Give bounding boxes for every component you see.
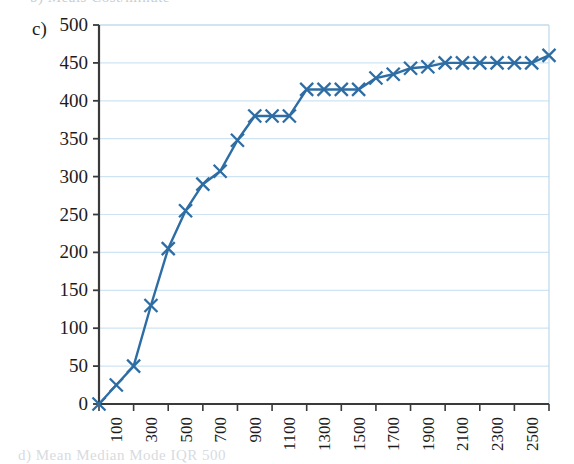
x-axis xyxy=(99,404,549,411)
svg-text:200: 200 xyxy=(60,241,89,262)
svg-text:500: 500 xyxy=(60,14,89,35)
data-point-marker xyxy=(144,299,157,312)
chart-svg: 050100150200250300350400450500 100300500… xyxy=(0,0,574,464)
data-point-marker xyxy=(110,379,123,392)
clipped-text-below-label: d) Mean Median Mode IQR 500 xyxy=(18,450,226,464)
gridlines xyxy=(99,25,549,366)
series-markers xyxy=(93,49,556,411)
chart-page: b) Meals Cost/minute c) 0501001502002503… xyxy=(0,0,574,464)
clipped-text-below: d) Mean Median Mode IQR 500 xyxy=(0,450,574,464)
svg-text:250: 250 xyxy=(60,204,89,225)
svg-text:300: 300 xyxy=(142,417,161,443)
svg-text:1300: 1300 xyxy=(315,417,334,451)
svg-text:1900: 1900 xyxy=(419,417,438,451)
svg-text:50: 50 xyxy=(69,355,88,376)
svg-text:100: 100 xyxy=(60,317,89,338)
series-line xyxy=(99,55,549,404)
data-point-marker xyxy=(214,165,227,178)
x-tick-labels: 1003005007009001100130015001700190021002… xyxy=(107,417,541,451)
data-point-marker xyxy=(162,242,175,255)
svg-text:350: 350 xyxy=(60,128,89,149)
svg-text:1700: 1700 xyxy=(384,417,403,451)
svg-text:2300: 2300 xyxy=(488,417,507,451)
data-point-marker xyxy=(179,204,192,217)
cumulative-frequency-chart: 050100150200250300350400450500 100300500… xyxy=(0,0,574,464)
svg-text:2500: 2500 xyxy=(523,417,542,451)
svg-text:500: 500 xyxy=(177,417,196,443)
svg-text:0: 0 xyxy=(79,393,89,414)
y-tick-labels: 050100150200250300350400450500 xyxy=(60,14,89,414)
svg-text:1500: 1500 xyxy=(350,417,369,451)
svg-text:100: 100 xyxy=(107,417,126,443)
svg-text:400: 400 xyxy=(60,90,89,111)
data-point-marker xyxy=(231,134,244,147)
svg-text:150: 150 xyxy=(60,279,89,300)
svg-text:900: 900 xyxy=(246,417,265,443)
svg-text:2100: 2100 xyxy=(453,417,472,451)
svg-text:450: 450 xyxy=(60,52,89,73)
svg-text:300: 300 xyxy=(60,166,89,187)
svg-text:1100: 1100 xyxy=(280,417,299,450)
y-axis xyxy=(93,25,99,405)
data-point-marker xyxy=(196,178,209,191)
svg-text:700: 700 xyxy=(211,417,230,443)
